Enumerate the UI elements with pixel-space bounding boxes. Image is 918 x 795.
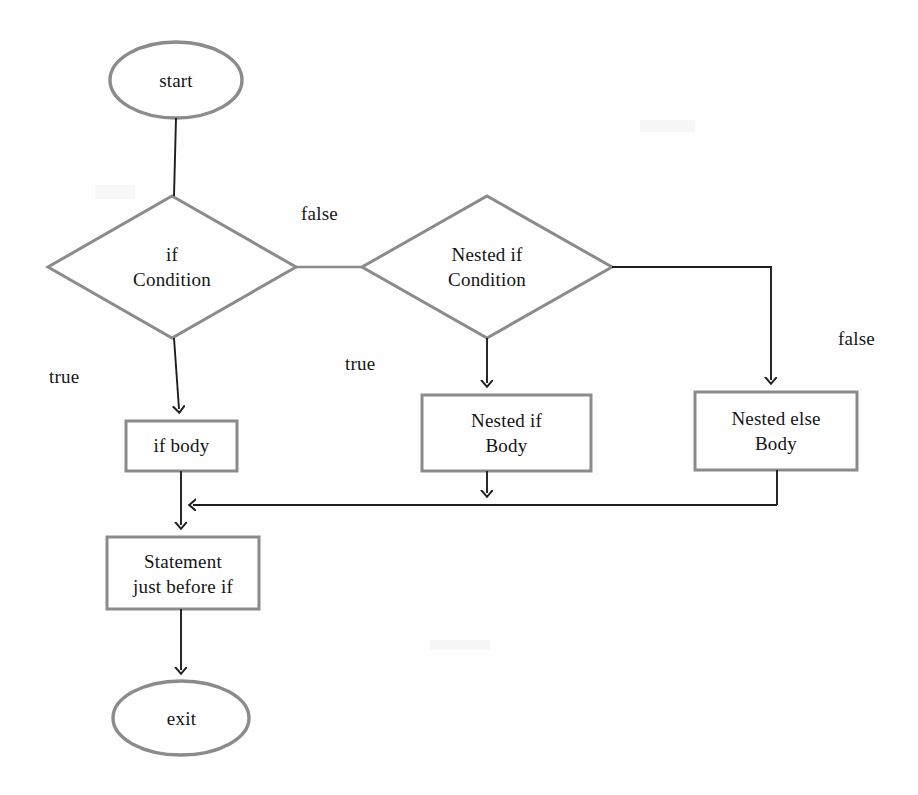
node-if-body xyxy=(126,421,237,471)
edge-label-false-if: false xyxy=(301,203,338,225)
node-start xyxy=(110,42,242,118)
edge-label-true-if: true xyxy=(49,366,79,388)
node-exit xyxy=(113,681,249,755)
node-if-condition xyxy=(48,196,296,338)
node-nested-if-body xyxy=(422,395,591,471)
edge-if-true-to-if-body xyxy=(174,338,179,409)
node-statement-before-if xyxy=(107,537,259,609)
node-nested-else-body xyxy=(695,392,857,470)
edge-label-false-nested-if: false xyxy=(838,328,875,350)
edge-start-to-if xyxy=(174,118,176,196)
edge-label-true-nested-if: true xyxy=(345,353,375,375)
flowchart-canvas: start if Condition Nested if Condition i… xyxy=(0,0,918,795)
flowchart-graphics xyxy=(0,0,918,795)
edge-nested-if-false-to-else-body xyxy=(612,267,771,380)
node-nested-if-condition xyxy=(362,196,612,338)
